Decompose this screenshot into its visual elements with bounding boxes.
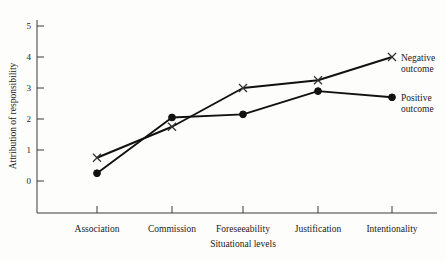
- data-point-positive-1: [169, 114, 176, 121]
- y-tick-label-3: 3: [27, 83, 32, 93]
- legend-positive-outcome: Positive outcome: [401, 93, 434, 114]
- data-point-negative-0: [93, 154, 101, 162]
- x-tick-label-intentionality: Intentionality: [366, 224, 417, 234]
- legend-negative-outcome: Negative outcome: [401, 53, 435, 74]
- data-point-positive-0: [94, 170, 101, 177]
- x-axis-ticks: [97, 206, 392, 213]
- series-line-negative-outcome: [97, 57, 392, 158]
- y-tick-label-5: 5: [27, 21, 32, 31]
- series-line-positive-outcome: [97, 91, 392, 173]
- legend-label-negative-line1: Negative: [401, 53, 435, 63]
- chart-figure: 5 4 3 2 1 0 Attribution of responsibilit…: [0, 0, 445, 261]
- x-axis-title: Situational levels: [210, 239, 276, 249]
- data-point-positive-2: [240, 111, 247, 118]
- x-tick-label-justification: Justification: [295, 224, 342, 234]
- y-tick-label-0: 0: [27, 176, 32, 186]
- x-tick-label-commission: Commission: [148, 224, 196, 234]
- x-tick-label-foreseeability: Foreseeability: [216, 224, 270, 234]
- x-tick-label-association: Association: [75, 224, 120, 234]
- x-axis-category-labels: Association Commission Foreseeability Ju…: [75, 224, 418, 234]
- y-tick-label-2: 2: [27, 114, 32, 124]
- legend-label-negative-line2: outcome: [401, 64, 434, 74]
- y-axis-ticks: [37, 26, 44, 181]
- legend-label-positive-line1: Positive: [401, 93, 432, 103]
- y-axis-title: Attribution of responsibility: [8, 62, 18, 169]
- y-axis-tick-labels: 5 4 3 2 1 0: [27, 21, 32, 186]
- series-markers-positive-outcome: [94, 88, 396, 177]
- y-tick-label-4: 4: [27, 52, 32, 62]
- data-point-negative-1: [168, 123, 176, 131]
- line-chart-canvas: 5 4 3 2 1 0 Attribution of responsibilit…: [0, 0, 445, 261]
- y-tick-label-1: 1: [27, 145, 32, 155]
- legend-label-positive-line2: outcome: [401, 104, 434, 114]
- data-point-positive-4: [389, 94, 396, 101]
- data-point-positive-3: [315, 88, 322, 95]
